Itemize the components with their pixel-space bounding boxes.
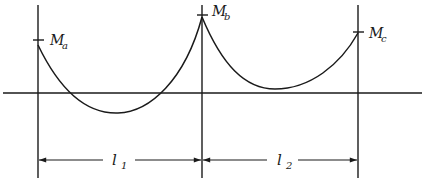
label-ma: M a — [49, 32, 68, 51]
moment-curve-span-2 — [202, 17, 358, 89]
label-l2: l 2 — [277, 151, 292, 171]
label-l1: l 1 — [112, 151, 127, 171]
svg-text:c: c — [381, 33, 387, 44]
svg-text:a: a — [62, 40, 68, 51]
svg-text:2: 2 — [285, 160, 292, 171]
label-mc: M c — [368, 25, 387, 44]
svg-text:b: b — [224, 11, 230, 22]
svg-text:l: l — [112, 151, 117, 169]
label-mb: M b — [211, 3, 230, 22]
svg-text:1: 1 — [121, 160, 127, 171]
svg-text:l: l — [277, 151, 282, 169]
bending-moment-diagram: M a M b M c l 1 l 2 — [0, 0, 422, 184]
